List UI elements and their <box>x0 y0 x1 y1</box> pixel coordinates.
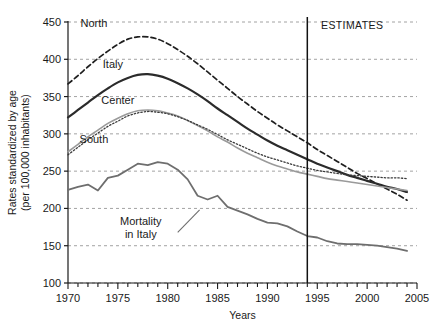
x-tick-label-1980: 1980 <box>155 292 179 304</box>
y-tick-label-350: 350 <box>43 91 61 103</box>
series-label-italy: Italy <box>103 58 124 70</box>
series-label-mortality-in-italy: Mortality <box>120 215 162 227</box>
series-label-mortality-in-italy-line2: in Italy <box>125 228 157 240</box>
x-tick-label-2005: 2005 <box>405 292 429 304</box>
y-tick-label-450: 450 <box>43 16 61 28</box>
x-tick-label-1995: 1995 <box>305 292 329 304</box>
y-axis-title-line2: (per 100,000 inhabitants) <box>19 94 31 211</box>
x-tick-label-1985: 1985 <box>205 292 229 304</box>
x-tick-label-2000: 2000 <box>355 292 379 304</box>
y-tick-label-250: 250 <box>43 165 61 177</box>
incidence-mortality-line-chart: 1001502002503003504004501970197519801985… <box>0 0 442 323</box>
y-tick-label-200: 200 <box>43 202 61 214</box>
x-tick-label-1990: 1990 <box>255 292 279 304</box>
series-label-center: Center <box>101 94 134 106</box>
y-tick-label-300: 300 <box>43 128 61 140</box>
y-tick-label-100: 100 <box>43 277 61 289</box>
x-axis-title: Years <box>229 309 255 321</box>
estimates-label: ESTIMATES <box>321 19 383 31</box>
y-tick-label-150: 150 <box>43 240 61 252</box>
chart-container: 1001502002503003504004501970197519801985… <box>0 0 442 323</box>
chart-background <box>0 0 442 323</box>
x-tick-label-1970: 1970 <box>56 292 80 304</box>
y-axis-title-line1: Rates standardized by age <box>6 90 18 215</box>
y-tick-label-400: 400 <box>43 53 61 65</box>
series-label-south: South <box>80 133 109 145</box>
x-tick-label-1975: 1975 <box>106 292 130 304</box>
series-label-north: North <box>80 17 107 29</box>
